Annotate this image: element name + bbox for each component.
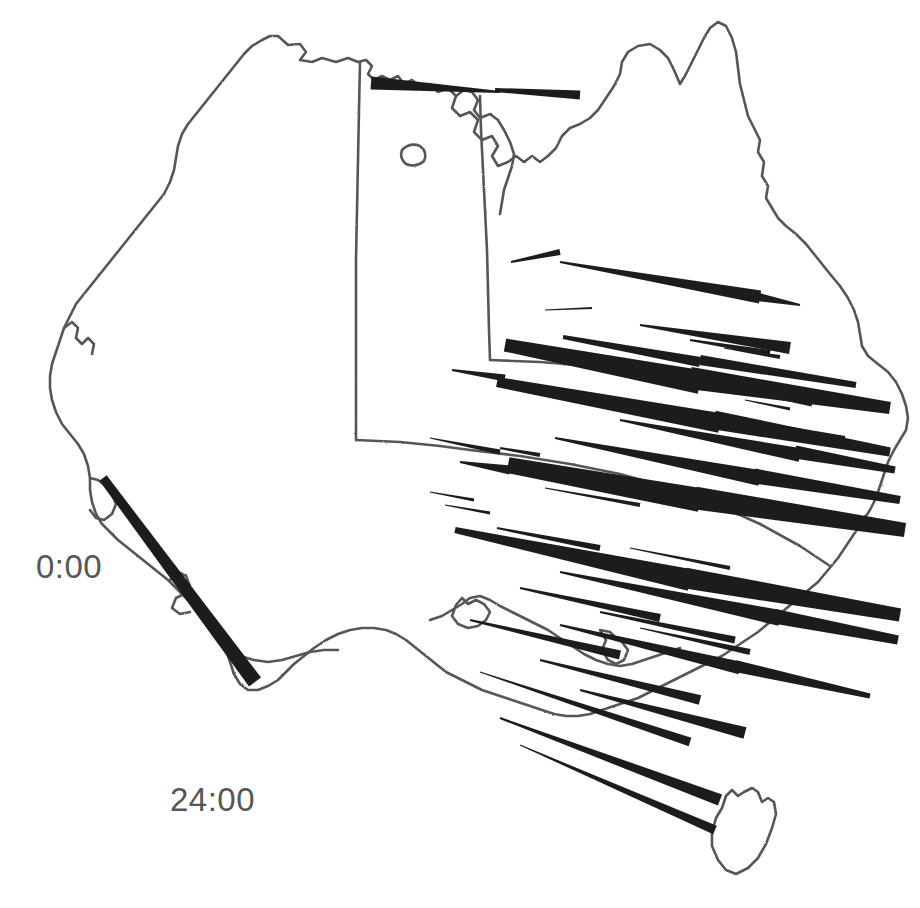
wedge-glyph xyxy=(752,292,800,306)
victoria-coast-detail xyxy=(430,596,680,666)
wedge-glyph xyxy=(545,307,592,311)
wedge-glyph xyxy=(734,660,871,698)
wedge-glyph xyxy=(640,324,791,354)
wedge-glyph xyxy=(371,77,501,93)
time-label-start: 0:00 xyxy=(36,550,102,583)
wedge-glyph xyxy=(495,88,580,99)
shark-bay-detail xyxy=(64,322,94,354)
wedge-glyph xyxy=(460,461,511,474)
border-wa-nt xyxy=(356,62,360,440)
wedge-glyph xyxy=(745,400,790,411)
border-nt-qld xyxy=(480,96,490,360)
figure-canvas: 0:00 24:00 xyxy=(0,0,920,908)
tasmania-outline xyxy=(712,788,776,874)
wedge-glyph xyxy=(500,717,722,806)
wedge-glyph xyxy=(430,492,474,502)
australia-wedge-map xyxy=(0,0,920,908)
wedge-glyph xyxy=(511,249,561,263)
wedge-glyph xyxy=(753,469,901,504)
wedge-glyph xyxy=(99,475,261,686)
wedge-glyph xyxy=(560,261,761,303)
wedge-glyph xyxy=(445,505,490,515)
time-label-end: 24:00 xyxy=(170,783,255,816)
wedge-glyph xyxy=(454,527,692,591)
island-outline xyxy=(401,145,425,166)
wedge-glyph xyxy=(470,619,621,659)
